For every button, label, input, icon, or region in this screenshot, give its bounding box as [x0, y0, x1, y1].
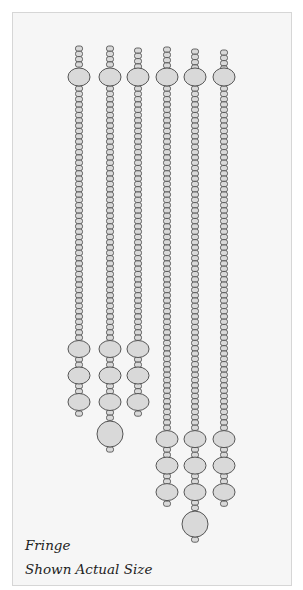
- seed-bead: [164, 367, 171, 372]
- seed-bead: [221, 50, 228, 55]
- seed-bead: [221, 61, 228, 66]
- seed-bead: [107, 213, 114, 218]
- seed-bead: [221, 113, 228, 118]
- seed-bead: [221, 383, 228, 388]
- seed-bead: [135, 150, 142, 155]
- seed-bead: [192, 166, 199, 171]
- seed-bead: [192, 261, 199, 266]
- seed-bead: [192, 282, 199, 287]
- seed-bead: [76, 219, 83, 224]
- seed-bead: [135, 48, 142, 53]
- seed-bead: [135, 272, 142, 277]
- seed-bead: [135, 266, 142, 271]
- seed-bead: [192, 420, 199, 425]
- seed-bead: [107, 415, 114, 420]
- seed-bead: [107, 293, 114, 298]
- seed-bead: [107, 224, 114, 229]
- seed-bead: [164, 245, 171, 250]
- seed-bead: [164, 256, 171, 261]
- seed-bead: [221, 287, 228, 292]
- seed-bead: [192, 181, 199, 186]
- seed-bead: [107, 335, 114, 340]
- seed-bead: [221, 314, 228, 319]
- seed-bead: [192, 91, 199, 96]
- seed-bead: [76, 287, 83, 292]
- seed-bead: [76, 134, 83, 139]
- seed-bead: [76, 272, 83, 277]
- seed-bead: [164, 298, 171, 303]
- seed-bead: [76, 319, 83, 324]
- seed-bead: [107, 57, 114, 62]
- seed-bead: [192, 388, 199, 393]
- strand-4: [156, 47, 178, 506]
- seed-bead: [107, 97, 114, 102]
- seed-bead: [76, 314, 83, 319]
- large-bead: [127, 68, 149, 86]
- seed-bead: [76, 309, 83, 314]
- seed-bead: [192, 219, 199, 224]
- seed-bead: [135, 102, 142, 107]
- large-bead: [184, 457, 206, 474]
- seed-bead: [107, 330, 114, 335]
- strand-5: [182, 49, 208, 542]
- seed-bead: [135, 287, 142, 292]
- seed-bead: [221, 139, 228, 144]
- seed-bead: [164, 63, 171, 68]
- large-bead: [68, 68, 90, 86]
- seed-bead: [135, 160, 142, 165]
- seed-bead: [221, 171, 228, 176]
- large-bead: [68, 341, 90, 358]
- seed-bead: [135, 197, 142, 202]
- seed-bead: [164, 335, 171, 340]
- seed-bead: [135, 224, 142, 229]
- seed-bead: [164, 91, 171, 96]
- seed-bead: [76, 203, 83, 208]
- seed-bead: [221, 229, 228, 234]
- large-bead: [213, 457, 235, 474]
- seed-bead: [221, 224, 228, 229]
- seed-bead: [221, 128, 228, 133]
- seed-bead: [107, 319, 114, 324]
- seed-bead: [76, 240, 83, 245]
- seed-bead: [192, 144, 199, 149]
- seed-bead: [164, 277, 171, 282]
- seed-bead: [164, 314, 171, 319]
- seed-bead: [192, 505, 199, 510]
- seed-bead: [135, 229, 142, 234]
- seed-bead: [192, 367, 199, 372]
- seed-bead: [107, 166, 114, 171]
- seed-bead: [135, 86, 142, 91]
- seed-bead: [135, 245, 142, 250]
- seed-bead: [164, 234, 171, 239]
- seed-bead: [76, 293, 83, 298]
- seed-bead: [135, 256, 142, 261]
- seed-bead: [164, 139, 171, 144]
- seed-bead: [192, 134, 199, 139]
- seed-bead: [221, 134, 228, 139]
- seed-bead: [221, 378, 228, 383]
- seed-bead: [135, 282, 142, 287]
- seed-bead: [135, 155, 142, 160]
- seed-bead: [135, 118, 142, 123]
- seed-bead: [107, 203, 114, 208]
- seed-bead: [221, 107, 228, 112]
- seed-bead: [107, 171, 114, 176]
- drop-bead: [97, 421, 123, 447]
- seed-bead: [221, 420, 228, 425]
- seed-bead: [221, 399, 228, 404]
- seed-bead: [164, 192, 171, 197]
- seed-bead: [107, 123, 114, 128]
- seed-bead: [164, 282, 171, 287]
- seed-bead: [76, 86, 83, 91]
- seed-bead: [192, 187, 199, 192]
- seed-bead: [192, 351, 199, 356]
- seed-bead: [192, 171, 199, 176]
- large-bead: [213, 484, 235, 501]
- seed-bead: [221, 340, 228, 345]
- seed-bead: [192, 266, 199, 271]
- seed-bead: [107, 256, 114, 261]
- seed-bead: [221, 330, 228, 335]
- fringe-diagram: [0, 0, 303, 590]
- figure-subtitle: Shown Actual Size: [25, 563, 152, 577]
- seed-bead: [192, 139, 199, 144]
